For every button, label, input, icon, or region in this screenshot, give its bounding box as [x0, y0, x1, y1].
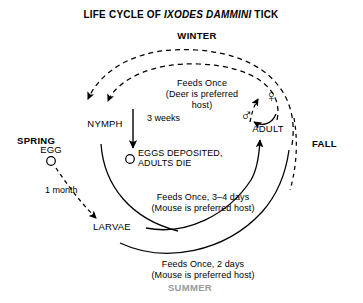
nymph-feeding-note-line-1: Feeds Once, 3–4 days — [157, 192, 250, 202]
stage-label-nymph: NYMPH — [87, 119, 122, 130]
season-label-summer: SUMMER — [168, 283, 212, 294]
duration-label-3-weeks: 3 weeks — [147, 113, 180, 123]
egg-circle-icon — [47, 157, 56, 166]
larvae-feeding-note-line-1: Feeds Once, 2 days — [162, 259, 244, 269]
stage-label-egg: EGG — [40, 145, 62, 156]
male-symbol-icon: ♂ — [240, 107, 253, 124]
stage-label-larvae: LARVAE — [93, 222, 131, 233]
deer-feeding-note-line-2: (Deer is preferred — [166, 89, 238, 99]
fall-dashed-arc — [290, 118, 296, 190]
eggs-deposited-line-2: ADULTS DIE — [138, 158, 191, 168]
deer-feeding-note-line-1: Feeds Once — [177, 78, 227, 88]
eggs-circle-icon — [126, 155, 135, 164]
eggs-deposited-line-1: EGGS DEPOSITED, — [138, 148, 223, 158]
life-cycle-diagram: LIFE CYCLE OF IXODES DAMMINI TICK WINTER… — [0, 0, 363, 303]
title-species: IXODES DAMMINI — [164, 9, 251, 20]
season-label-fall: FALL — [312, 139, 337, 150]
nymph-feeding-note-line-2: (Mouse is preferred host) — [151, 203, 254, 213]
season-label-winter: WINTER — [177, 31, 216, 42]
page-title: LIFE CYCLE OF IXODES DAMMINI TICK — [84, 9, 279, 20]
stage-label-adult: ADULT — [252, 124, 283, 135]
duration-label-1-month: 1 month — [45, 185, 78, 195]
female-symbol-icon: ♀ — [265, 88, 278, 105]
title-suffix: TICK — [251, 9, 278, 20]
larvae-feeding-note-line-2: (Mouse is preferred host) — [151, 270, 254, 280]
title-prefix: LIFE CYCLE OF — [84, 9, 165, 20]
deer-feeding-note-line-3: host) — [192, 100, 213, 110]
